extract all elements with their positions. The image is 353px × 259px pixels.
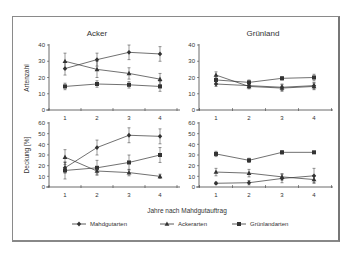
chart-panels: 0102030401234010203040123401020304050601… [38, 42, 333, 198]
panel-title-gruenland: Grünland [247, 29, 280, 38]
series-ackerarten [214, 72, 317, 92]
y-tick-label: 60 [188, 120, 195, 126]
legend-label: Ackerarten [178, 221, 207, 227]
data-point-marker-diamond [158, 134, 162, 139]
y-tick-label: 30 [38, 152, 45, 158]
x-tick-label: 3 [127, 115, 131, 121]
x-tick-label: 2 [95, 115, 99, 121]
x-tick-label: 2 [95, 192, 99, 198]
data-point-marker-square [63, 168, 67, 172]
data-point-marker-square [312, 150, 316, 154]
legend-label: Grünlandarten [250, 221, 288, 227]
x-tick-label: 4 [158, 192, 162, 198]
y-tick-label: 40 [38, 142, 45, 148]
series-gruenlandarten [214, 150, 316, 162]
legend-marker-square [237, 222, 241, 226]
data-point-marker-square [158, 84, 162, 88]
series-gruenlandarten [63, 148, 162, 179]
y-tick-label: 0 [192, 184, 196, 190]
x-tick-label: 1 [214, 192, 218, 198]
x-tick-label: 3 [280, 192, 284, 198]
legend-label: Mahdgutarten [90, 221, 127, 227]
legend-item-ackerarten: Ackerarten [160, 221, 207, 227]
y-tick-label: 30 [188, 58, 195, 64]
data-point-marker-square [63, 84, 67, 88]
y-tick-label: 40 [38, 42, 45, 48]
x-tick-label: 1 [63, 115, 67, 121]
data-point-marker-square [247, 158, 251, 162]
data-point-marker-square [280, 150, 284, 154]
x-tick-label: 3 [127, 192, 131, 198]
data-point-marker-square [214, 78, 218, 82]
series-gruenlandarten [63, 81, 162, 92]
y-tick-label: 30 [188, 152, 195, 158]
x-tick-label: 1 [63, 192, 67, 198]
x-tick-label: 1 [214, 115, 218, 121]
data-point-marker-square [95, 82, 99, 86]
y-tick-label: 40 [188, 42, 195, 48]
y-tick-label: 10 [188, 91, 195, 97]
y-tick-label: 0 [42, 184, 46, 190]
y-tick-label: 10 [38, 91, 45, 97]
x-tick-label: 2 [247, 192, 251, 198]
chart-panel-top-left: 0102030401234 [38, 42, 180, 121]
series-mahdgutarten [214, 168, 316, 185]
data-point-marker-square [280, 76, 284, 80]
series-ackerarten [63, 53, 163, 85]
data-point-marker-diamond [158, 52, 162, 57]
y-tick-label: 20 [188, 75, 195, 81]
y-tick-label: 20 [38, 75, 45, 81]
legend-marker-diamond [77, 222, 81, 227]
series-mahdgutarten [214, 82, 316, 91]
y-axis-label-deckung: Deckung [%] [23, 136, 31, 173]
chart-panel-bottom-right: 01020304050601234 [188, 120, 333, 198]
data-point-marker-diamond [127, 133, 131, 138]
y-tick-label: 50 [38, 131, 45, 137]
y-tick-label: 0 [192, 107, 196, 113]
y-tick-label: 20 [188, 163, 195, 169]
legend-item-gruenlandarten: Grünlandarten [232, 221, 288, 227]
panel-title-acker: Acker [87, 29, 108, 38]
data-point-marker-square [214, 152, 218, 156]
y-tick-label: 40 [188, 142, 195, 148]
data-point-marker-square [158, 153, 162, 157]
x-tick-label: 4 [312, 192, 316, 198]
data-point-marker-triangle [214, 169, 219, 173]
x-tick-label: 4 [312, 115, 316, 121]
x-tick-label: 2 [247, 115, 251, 121]
data-point-marker-square [127, 83, 131, 87]
chart-panel-top-right: 0102030401234 [188, 42, 333, 121]
figure-canvas: Acker Grünland Artenzahl Deckung [%] Jah… [0, 0, 353, 259]
data-point-marker-square [247, 80, 251, 84]
y-tick-label: 60 [38, 120, 45, 126]
chart-panel-bottom-left: 01020304050601234 [38, 120, 180, 198]
legend: MahdgutartenAckerartenGrünlandarten [72, 221, 288, 227]
data-point-marker-square [312, 76, 316, 80]
legend-item-mahdgutarten: Mahdgutarten [72, 221, 127, 227]
y-axis-label-artenzahl: Artenzahl [23, 64, 30, 92]
series-ackerarten [63, 150, 163, 179]
y-tick-label: 0 [42, 107, 46, 113]
data-point-marker-diamond [127, 50, 131, 55]
series-mahdgutarten [63, 45, 162, 75]
data-point-marker-diamond [214, 181, 218, 186]
data-point-marker-diamond [247, 180, 251, 185]
data-point-marker-triangle [63, 155, 68, 159]
data-point-marker-triangle [63, 59, 68, 63]
y-tick-label: 30 [38, 58, 45, 64]
y-tick-label: 50 [188, 131, 195, 137]
x-tick-label: 4 [158, 115, 162, 121]
data-point-marker-triangle [214, 72, 219, 76]
data-point-marker-diamond [95, 145, 99, 150]
series-mahdgutarten [63, 128, 162, 173]
data-point-marker-square [95, 166, 99, 170]
y-tick-label: 10 [38, 174, 45, 180]
y-tick-label: 10 [188, 174, 195, 180]
y-tick-label: 20 [38, 163, 45, 169]
x-axis-label: Jahre nach Mahdgutauftrag [147, 207, 227, 215]
x-tick-label: 3 [280, 115, 284, 121]
data-point-marker-square [127, 160, 131, 164]
